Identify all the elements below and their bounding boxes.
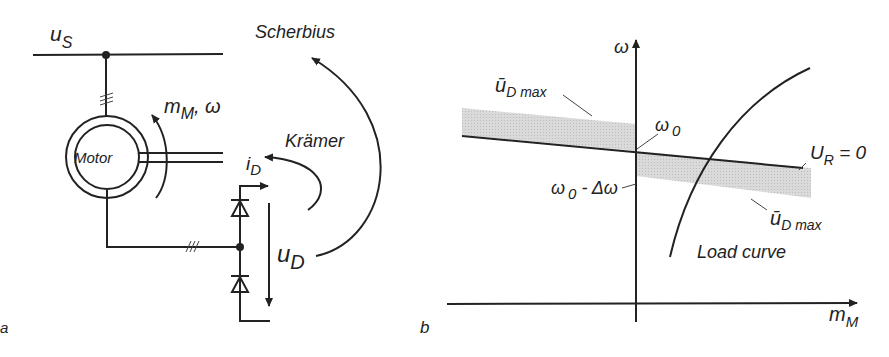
rotation-arrow (152, 115, 167, 198)
panel-b-label: b (420, 318, 429, 337)
rotor-lead-line (107, 190, 240, 247)
panel-a-circuit: uS Motor mM, ω Scherbius Krämer iD uD a (0, 22, 381, 336)
udmax-lower-label: ūD max (770, 207, 823, 233)
x-axis-label: mM (829, 303, 859, 330)
torque-speed-label: mM, ω (164, 95, 221, 122)
x-axis (447, 303, 857, 304)
panel-a-label: a (0, 319, 8, 336)
omega0-minus-label: ω0 - Δω (551, 178, 618, 202)
omega0-label: ω0 (655, 115, 681, 139)
y-axis-label: ω (614, 36, 629, 57)
udmax-band-lower (636, 151, 811, 198)
ur-zero-label: UR = 0 (810, 142, 867, 168)
supply-voltage-label: uS (50, 22, 73, 51)
rectifier-bridge-line (240, 186, 270, 321)
dc-current-label: iD (246, 153, 261, 178)
udmax-upper-leader (563, 95, 592, 116)
three-phase-mark-stator (100, 93, 113, 105)
omega0-minus-leader (622, 184, 636, 188)
motor-label: Motor (74, 149, 113, 166)
supply-bus-line (33, 54, 223, 55)
panel-b-diagram: ω ūD max ω0 ω0 - Δω UR = 0 ūD max Load c… (420, 36, 867, 337)
scherbius-arrow (312, 58, 381, 256)
load-curve-label: Load curve (697, 242, 786, 262)
omega0-leader (637, 134, 658, 149)
udmax-upper-label: ūD max (495, 74, 548, 100)
figure: uS Motor mM, ω Scherbius Krämer iD uD a … (0, 0, 889, 357)
udmax-lower-leader (751, 199, 767, 210)
kramer-label: Krämer (285, 131, 345, 151)
dc-voltage-label: uD (277, 240, 305, 273)
scherbius-label: Scherbius (255, 22, 335, 42)
kramer-arrow (265, 157, 321, 210)
